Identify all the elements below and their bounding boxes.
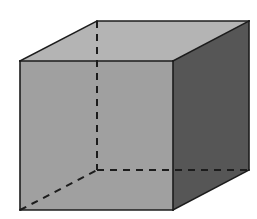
cube-diagram: Shaded cuboid in oblique projection [0, 0, 257, 219]
figure-container: Shaded cuboid in oblique projection [0, 0, 257, 219]
cube-face-front-fill [20, 61, 173, 210]
